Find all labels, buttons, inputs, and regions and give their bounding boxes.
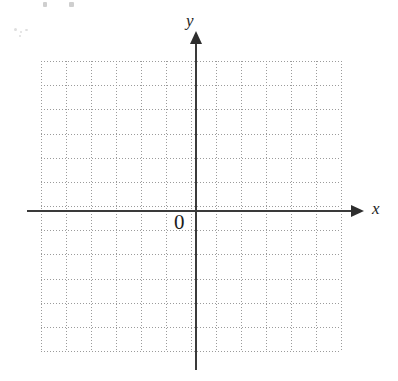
gridline-horizontal bbox=[41, 158, 341, 159]
gridline-horizontal bbox=[41, 303, 341, 304]
gridline-horizontal bbox=[41, 109, 341, 110]
gridline-horizontal bbox=[41, 61, 341, 62]
y-axis-line bbox=[195, 42, 197, 370]
graph-figure: y x 0 bbox=[0, 0, 398, 381]
x-axis-label: x bbox=[372, 200, 380, 217]
scan-artifact bbox=[69, 2, 74, 7]
gridline-horizontal bbox=[41, 134, 341, 135]
origin-label: 0 bbox=[174, 212, 185, 233]
scan-artifact bbox=[25, 29, 28, 31]
gridline-horizontal bbox=[41, 327, 341, 328]
gridline-horizontal bbox=[41, 351, 341, 352]
gridline-horizontal bbox=[41, 206, 341, 207]
gridline-horizontal bbox=[41, 279, 341, 280]
dotted-grid bbox=[41, 61, 341, 351]
scan-artifact bbox=[19, 35, 21, 37]
scan-artifact bbox=[20, 31, 22, 33]
scan-artifact bbox=[43, 2, 47, 7]
gridline-horizontal bbox=[41, 85, 341, 86]
gridline-horizontal bbox=[41, 230, 341, 231]
scan-artifact bbox=[14, 28, 17, 31]
y-axis-label: y bbox=[186, 12, 194, 29]
y-axis-arrow-icon bbox=[190, 31, 202, 44]
gridline-vertical bbox=[341, 61, 342, 351]
x-axis-arrow-icon bbox=[351, 205, 364, 217]
gridline-horizontal bbox=[41, 254, 341, 255]
x-axis-line bbox=[27, 210, 353, 212]
gridline-horizontal bbox=[41, 182, 341, 183]
